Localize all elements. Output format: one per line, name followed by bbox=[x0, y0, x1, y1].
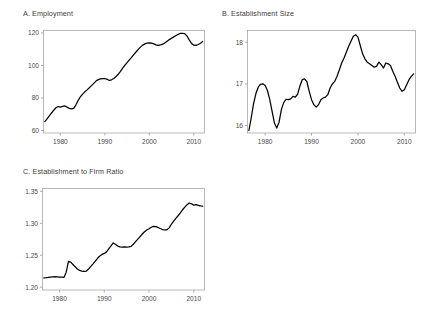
panel-b-ticks-x: 1980199020002010 bbox=[258, 133, 412, 145]
y-tick-label: 16 bbox=[236, 122, 244, 129]
panel-employment: A. Employment 6080100120 198019902000201… bbox=[0, 0, 212, 155]
panel-b-data-line bbox=[249, 35, 414, 131]
x-tick-label: 2010 bbox=[397, 138, 412, 145]
y-tick-label: 1.20 bbox=[25, 284, 38, 291]
panel-a-svg: 6080100120 1980199020002010 bbox=[0, 0, 212, 155]
panel-c-ticks-x: 1980199020002010 bbox=[52, 290, 201, 302]
x-tick-label: 2000 bbox=[142, 138, 157, 145]
panel-b-plot: 161718 1980199020002010 bbox=[212, 0, 425, 155]
x-tick-label: 2010 bbox=[186, 138, 201, 145]
panel-b-ticks-y: 161718 bbox=[236, 39, 248, 129]
y-tick-label: 1.25 bbox=[25, 252, 38, 259]
figure-panel-group: A. Employment 6080100120 198019902000201… bbox=[0, 0, 425, 321]
panel-a-ticks-x: 1980199020002010 bbox=[53, 133, 201, 145]
y-tick-label: 18 bbox=[236, 39, 244, 46]
y-tick-label: 120 bbox=[28, 29, 39, 36]
y-tick-label: 17 bbox=[236, 80, 244, 87]
y-tick-label: 80 bbox=[32, 94, 40, 101]
panel-b-svg: 161718 1980199020002010 bbox=[212, 0, 425, 155]
panel-c-frame bbox=[43, 189, 205, 291]
panel-a-frame bbox=[44, 31, 205, 134]
x-tick-label: 2000 bbox=[142, 295, 157, 302]
panel-c-plot: 1.201.251.301.35 1980199020002010 bbox=[0, 160, 212, 321]
x-tick-label: 1980 bbox=[52, 295, 67, 302]
x-tick-label: 1990 bbox=[97, 295, 112, 302]
x-tick-label: 1990 bbox=[304, 138, 319, 145]
x-tick-label: 2010 bbox=[186, 295, 201, 302]
panel-establishment-size: B. Establishment Size 161718 19801990200… bbox=[212, 0, 425, 155]
x-tick-label: 2000 bbox=[351, 138, 366, 145]
panel-a-ticks-y: 6080100120 bbox=[28, 29, 44, 134]
panel-b-frame bbox=[248, 31, 416, 134]
panel-c-svg: 1.201.251.301.35 1980199020002010 bbox=[0, 160, 212, 321]
panel-a-data-line bbox=[45, 33, 203, 121]
panel-a-plot: 6080100120 1980199020002010 bbox=[0, 0, 212, 155]
panel-c-data-line bbox=[44, 203, 203, 278]
x-tick-label: 1990 bbox=[98, 138, 113, 145]
x-tick-label: 1980 bbox=[53, 138, 68, 145]
x-tick-label: 1980 bbox=[258, 138, 273, 145]
y-tick-label: 1.35 bbox=[25, 188, 38, 195]
y-tick-label: 1.30 bbox=[25, 220, 38, 227]
panel-establishment-to-firm-ratio: C. Establishment to Firm Ratio 1.201.251… bbox=[0, 160, 212, 321]
y-tick-label: 100 bbox=[28, 62, 39, 69]
panel-c-ticks-y: 1.201.251.301.35 bbox=[25, 188, 42, 291]
y-tick-label: 60 bbox=[32, 127, 40, 134]
